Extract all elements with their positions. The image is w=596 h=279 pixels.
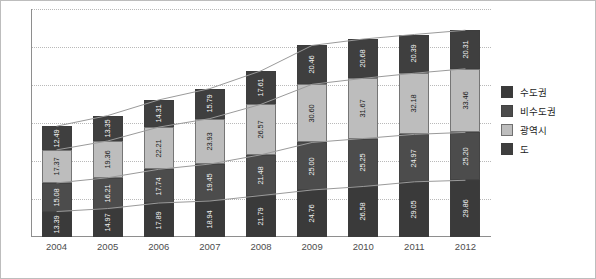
- bar-value-label: 22.21: [154, 139, 163, 157]
- bar-segment[interactable]: 17.37: [42, 150, 72, 183]
- stacked-bar[interactable]: 13.3915.0817.3712.49: [42, 126, 72, 237]
- bar-segment[interactable]: 25.00: [297, 142, 327, 190]
- bar-value-label: 33.46: [461, 92, 470, 110]
- legend-swatch: [501, 86, 513, 98]
- stacked-bar[interactable]: 18.9419.4523.9315.79: [195, 89, 225, 237]
- bar-segment[interactable]: 20.39: [399, 35, 429, 74]
- bar-segment[interactable]: 19.36: [93, 141, 123, 178]
- bar-value-label: 20.39: [410, 45, 419, 63]
- legend-item[interactable]: 광역시: [501, 123, 587, 136]
- bar-segment[interactable]: 20.46: [297, 45, 327, 84]
- bar-segment[interactable]: 29.86: [450, 180, 480, 237]
- bar-segment[interactable]: 16.21: [93, 178, 123, 209]
- bar-value-label: 31.67: [359, 100, 368, 118]
- bar-value-label: 24.97: [410, 149, 419, 167]
- legend-item[interactable]: 도: [501, 142, 587, 155]
- bar-value-label: 18.94: [205, 210, 214, 228]
- legend-label: 비수도권: [520, 104, 556, 118]
- bar-segment[interactable]: 26.57: [246, 104, 276, 154]
- legend-swatch: [501, 124, 513, 136]
- bar-segment[interactable]: 15.08: [42, 183, 72, 212]
- bar-segment[interactable]: 25.25: [348, 139, 378, 187]
- bar-value-label: 13.39: [52, 215, 61, 233]
- legend-swatch: [501, 105, 513, 117]
- plot-area: 13.3915.0817.3712.4914.9716.2119.3613.35…: [31, 9, 491, 237]
- legend-label: 도: [520, 142, 529, 156]
- stacked-bar[interactable]: 29.8625.2033.4620.31: [450, 30, 480, 237]
- stacked-bar[interactable]: 14.9716.2119.3613.35: [93, 116, 123, 237]
- bar-segment[interactable]: 14.97: [93, 209, 123, 237]
- stacked-bar[interactable]: 21.7921.4826.5717.61: [246, 71, 276, 237]
- bar-segment[interactable]: 31.67: [348, 78, 378, 138]
- x-axis-label: 2007: [187, 241, 233, 252]
- bar-segment[interactable]: 18.94: [195, 201, 225, 237]
- bar-value-label: 30.60: [308, 105, 317, 123]
- bar-value-label: 26.58: [359, 203, 368, 221]
- bar-segment[interactable]: 20.31: [450, 30, 480, 69]
- bar-segment[interactable]: 29.05: [399, 182, 429, 237]
- bar-value-label: 13.35: [103, 119, 112, 137]
- legend-item[interactable]: 수도권: [501, 85, 587, 98]
- bar-segment[interactable]: 19.45: [195, 164, 225, 201]
- bar-value-label: 23.93: [205, 132, 214, 150]
- legend-label: 광역시: [520, 123, 547, 137]
- x-axis-label: 2012: [442, 241, 488, 252]
- bar-segment[interactable]: 30.60: [297, 84, 327, 142]
- bar-value-label: 17.89: [154, 211, 163, 229]
- bar-segment[interactable]: 12.49: [42, 126, 72, 150]
- chart-frame: 13.3915.0817.3712.4914.9716.2119.3613.35…: [0, 0, 596, 279]
- bar-value-label: 15.08: [52, 188, 61, 206]
- bar-segment[interactable]: 21.48: [246, 155, 276, 196]
- x-axis-label: 2005: [85, 241, 131, 252]
- bar-value-label: 17.74: [154, 177, 163, 195]
- bar-value-label: 20.31: [461, 41, 470, 59]
- bar-value-label: 20.46: [308, 56, 317, 74]
- bar-value-label: 12.49: [52, 129, 61, 147]
- x-axis-label: 2011: [391, 241, 437, 252]
- bar-value-label: 15.79: [205, 95, 214, 113]
- bar-value-label: 21.79: [257, 207, 266, 225]
- bar-value-label: 29.05: [410, 201, 419, 219]
- legend-label: 수도권: [520, 85, 547, 99]
- bar-value-label: 16.21: [103, 184, 112, 202]
- x-axis-label: 2004: [34, 241, 80, 252]
- x-axis-label: 2010: [340, 241, 386, 252]
- legend-swatch: [501, 143, 513, 155]
- x-axis-label: 2006: [136, 241, 182, 252]
- bar-segment[interactable]: 23.93: [195, 119, 225, 164]
- bar-segment[interactable]: 13.35: [93, 116, 123, 141]
- bar-segment[interactable]: 17.74: [144, 169, 174, 203]
- bar-segment[interactable]: 15.79: [195, 89, 225, 119]
- bar-segment[interactable]: 32.18: [399, 73, 429, 134]
- bar-segment[interactable]: 24.76: [297, 190, 327, 237]
- bar-value-label: 14.97: [103, 214, 112, 232]
- bar-segment[interactable]: 21.79: [246, 196, 276, 237]
- x-axis-label: 2008: [238, 241, 284, 252]
- bar-value-label: 24.76: [308, 205, 317, 223]
- bar-segment[interactable]: 17.89: [144, 203, 174, 237]
- bar-segment[interactable]: 13.39: [42, 212, 72, 237]
- bar-value-label: 20.68: [359, 50, 368, 68]
- x-axis-labels: 200420052006200720082009201020112012: [31, 241, 491, 259]
- bar-value-label: 14.31: [154, 105, 163, 123]
- bar-value-label: 21.48: [257, 166, 266, 184]
- stacked-bar[interactable]: 17.8917.7422.2114.31: [144, 100, 174, 237]
- bar-segment[interactable]: 22.21: [144, 127, 174, 169]
- bar-value-label: 25.25: [359, 154, 368, 172]
- bar-value-label: 26.57: [257, 121, 266, 139]
- bar-value-label: 17.37: [52, 158, 61, 176]
- bar-value-label: 32.18: [410, 95, 419, 113]
- bar-value-label: 19.36: [103, 150, 112, 168]
- bar-group: 13.3915.0817.3712.4914.9716.2119.3613.35…: [31, 9, 491, 237]
- stacked-bar[interactable]: 26.5825.2531.6720.68: [348, 39, 378, 237]
- stacked-bar[interactable]: 29.0524.9732.1820.39: [399, 35, 429, 238]
- bar-segment[interactable]: 33.46: [450, 69, 480, 133]
- bar-segment[interactable]: 25.20: [450, 132, 480, 180]
- legend-item[interactable]: 비수도권: [501, 104, 587, 117]
- stacked-bar[interactable]: 24.7625.0030.6020.46: [297, 45, 327, 237]
- bar-segment[interactable]: 14.31: [144, 100, 174, 127]
- bar-segment[interactable]: 24.97: [399, 134, 429, 181]
- bar-segment[interactable]: 17.61: [246, 71, 276, 104]
- bar-segment[interactable]: 26.58: [348, 187, 378, 238]
- bar-segment[interactable]: 20.68: [348, 39, 378, 78]
